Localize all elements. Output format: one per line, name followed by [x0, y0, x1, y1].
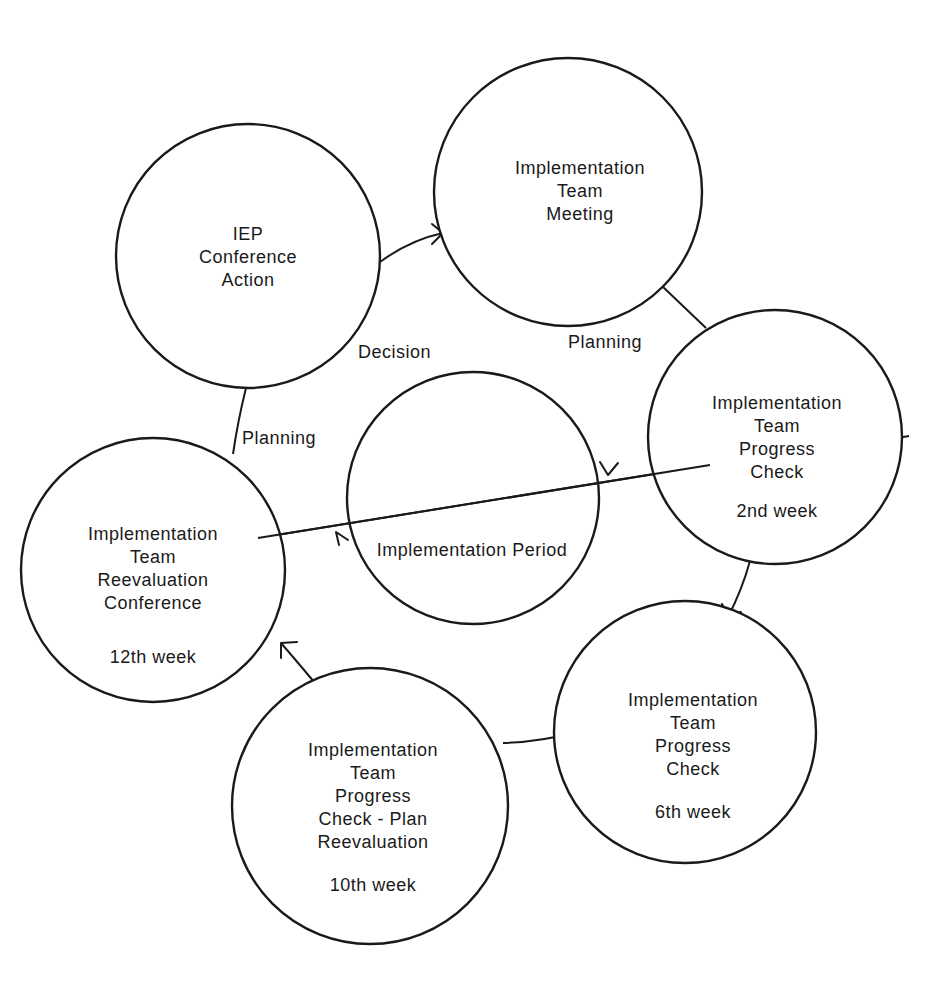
svg-text:Progress: Progress: [739, 439, 815, 459]
svg-text:Implementation: Implementation: [712, 393, 842, 413]
svg-text:Conference: Conference: [104, 593, 202, 613]
connector-meeting-to-check2: [662, 286, 706, 328]
node-progress-check-2nd: [648, 310, 902, 564]
svg-text:IEP: IEP: [233, 224, 264, 244]
svg-text:Implementation Period: Implementation Period: [377, 540, 568, 560]
svg-text:Team: Team: [557, 181, 603, 201]
svg-text:Implementation: Implementation: [628, 690, 758, 710]
node-implementation-period: [347, 372, 599, 624]
edge-label-decision: Decision: [358, 342, 431, 362]
svg-text:6th week: 6th week: [655, 802, 732, 822]
svg-text:Implementation: Implementation: [515, 158, 645, 178]
svg-text:Check - Plan: Check - Plan: [318, 809, 427, 829]
svg-text:Team: Team: [754, 416, 800, 436]
svg-text:2nd week: 2nd week: [736, 501, 818, 521]
svg-text:Action: Action: [221, 270, 274, 290]
label-period: Implementation Period: [377, 540, 568, 560]
svg-text:Reevaluation: Reevaluation: [317, 832, 428, 852]
arrowhead-period-right: [600, 462, 618, 475]
connector-period-crossing: [258, 465, 710, 538]
svg-text:12th week: 12th week: [110, 647, 197, 667]
cycle-diagram: Decision Planning Planning IEP Conferenc…: [0, 0, 951, 991]
svg-text:Check: Check: [750, 462, 804, 482]
svg-text:Implementation: Implementation: [88, 524, 218, 544]
svg-text:Reevaluation: Reevaluation: [97, 570, 208, 590]
svg-text:Implementation: Implementation: [308, 740, 438, 760]
svg-text:Team: Team: [670, 713, 716, 733]
svg-text:Progress: Progress: [335, 786, 411, 806]
node-progress-check-10th: [232, 668, 508, 944]
connector-iep-to-meeting: [380, 233, 443, 262]
svg-text:Progress: Progress: [655, 736, 731, 756]
svg-text:Team: Team: [350, 763, 396, 783]
svg-text:Meeting: Meeting: [546, 204, 614, 224]
svg-text:Team: Team: [130, 547, 176, 567]
svg-text:10th week: 10th week: [330, 875, 417, 895]
edge-label-planning-left: Planning: [242, 428, 316, 448]
svg-text:Check: Check: [666, 759, 720, 779]
edge-label-planning-top: Planning: [568, 332, 642, 352]
svg-text:Conference: Conference: [199, 247, 297, 267]
arrowhead-period-left: [336, 532, 348, 545]
